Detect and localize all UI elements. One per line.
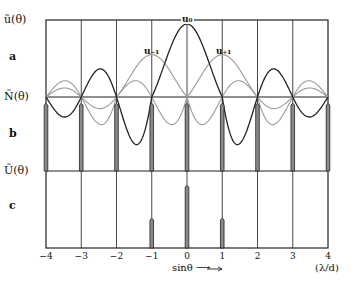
x-axis-label: sinθ ⟶	[172, 262, 210, 273]
x-tick: −1	[145, 251, 158, 261]
x-tick: 1	[219, 251, 225, 261]
ylabel-N: Ñ(θ)	[4, 90, 29, 103]
x-tick: 0	[184, 251, 190, 261]
x-tick: 3	[290, 251, 296, 261]
panel-b-grating-spikes	[44, 104, 330, 172]
x-tick: −4	[39, 251, 52, 261]
x-tick: 2	[255, 251, 261, 261]
ylabel-u: ũ(θ)	[4, 13, 26, 26]
label-u0: u₀	[181, 14, 194, 24]
ylabel-U: Ũ(θ)	[4, 164, 28, 177]
panel-letter-a: a	[9, 50, 16, 63]
panel-letter-b: b	[9, 127, 17, 140]
label-u-minus1: u₋₁	[144, 46, 159, 56]
panel-letter-c: c	[9, 199, 16, 212]
x-tick: −3	[75, 251, 88, 261]
x-tick: 4	[325, 251, 331, 261]
diffraction-figure	[0, 0, 354, 285]
label-u-plus1: u₊₁	[216, 46, 231, 56]
x-axis-unit: (λ/d)	[315, 262, 339, 273]
x-tick: −2	[110, 251, 123, 261]
panel-c-spectrum-spikes	[150, 186, 224, 249]
